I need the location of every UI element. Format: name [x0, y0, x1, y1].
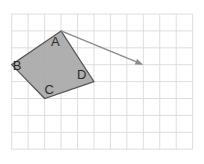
translation-diagram: A B C D — [0, 0, 204, 164]
vertex-label-d: D — [77, 67, 86, 82]
vertex-label-c: C — [45, 82, 54, 97]
arrowhead-icon — [135, 59, 144, 65]
vertex-label-a: A — [51, 34, 60, 49]
vertex-label-b: B — [13, 58, 22, 73]
